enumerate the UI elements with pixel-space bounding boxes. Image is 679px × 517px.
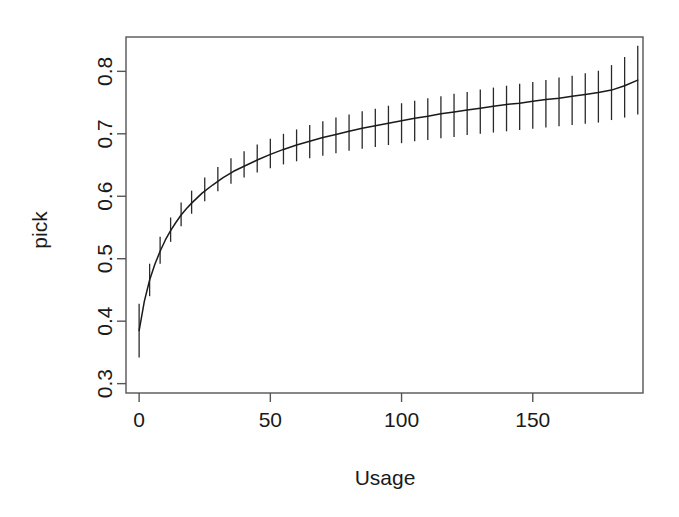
y-tick-label: 0.7 — [93, 119, 116, 148]
x-axis-title: Usage — [355, 466, 416, 489]
x-tick-label: 150 — [515, 408, 550, 431]
y-axis-title: pick — [28, 211, 51, 249]
y-tick-label: 0.5 — [93, 244, 116, 273]
x-tick-label: 100 — [384, 408, 419, 431]
x-tick-label: 0 — [133, 408, 145, 431]
y-tick-label: 0.3 — [93, 369, 116, 398]
y-axis-ticks — [117, 71, 126, 383]
error-bar-group — [139, 46, 638, 358]
y-tick-label: 0.4 — [93, 306, 116, 336]
x-axis-tick-labels: 050100150 — [133, 408, 550, 431]
chart-figure: 0.30.40.50.60.70.8 050100150 Usage pick — [0, 0, 679, 517]
y-tick-label: 0.8 — [93, 57, 116, 86]
x-axis-ticks — [139, 393, 533, 402]
x-tick-label: 50 — [259, 408, 282, 431]
plot-frame-box — [126, 37, 643, 393]
y-tick-label: 0.6 — [93, 182, 116, 211]
plot-canvas: 0.30.40.50.60.70.8 050100150 Usage pick — [0, 0, 679, 517]
y-axis-tick-labels: 0.30.40.50.60.70.8 — [93, 57, 116, 398]
